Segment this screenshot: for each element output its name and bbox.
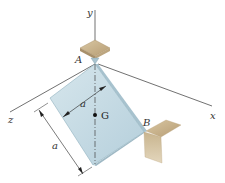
dimension-width-label: a (80, 98, 86, 109)
z-axis-label: z (7, 114, 14, 125)
point-g-label: G (101, 110, 109, 121)
dimension-height-label: a (52, 140, 58, 151)
y-axis-label: y (86, 7, 93, 18)
ball-joint-a (91, 58, 99, 64)
center-of-mass-point (93, 113, 97, 117)
rigid-plate-diagram: y z x A a a G (0, 0, 225, 183)
point-a-label: A (74, 54, 82, 65)
plate (50, 64, 147, 166)
support-a-block (80, 40, 110, 59)
x-axis-label: x (210, 110, 216, 121)
point-b-label: B (142, 117, 150, 128)
